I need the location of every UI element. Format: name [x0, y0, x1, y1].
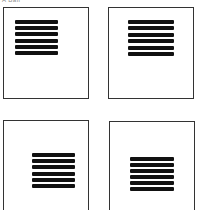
text-line [32, 172, 75, 176]
text-line [15, 51, 58, 55]
text-line [130, 169, 174, 173]
text-line [130, 163, 174, 167]
text-block-bottom-right [130, 157, 174, 191]
text-line [128, 20, 174, 24]
figure-caption: A Ball [2, 0, 20, 3]
text-line [32, 178, 75, 182]
text-line [128, 52, 174, 56]
text-line [15, 45, 58, 49]
text-line [15, 20, 58, 24]
text-line [128, 39, 174, 43]
text-line [130, 157, 174, 161]
text-line [15, 26, 58, 30]
text-line [128, 26, 174, 30]
text-block-top-left [15, 20, 58, 55]
text-line [32, 153, 75, 157]
text-line [128, 33, 174, 37]
text-line [15, 32, 58, 36]
text-line [32, 165, 75, 169]
text-line [130, 187, 174, 191]
text-line [130, 181, 174, 185]
text-block-bottom-left [32, 153, 75, 188]
text-block-top-right [128, 20, 174, 56]
text-line [130, 175, 174, 179]
text-line [15, 39, 58, 43]
text-line [32, 159, 75, 163]
text-line [128, 46, 174, 50]
text-line [32, 184, 75, 188]
